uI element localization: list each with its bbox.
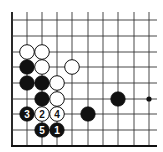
white-stone-icon [65, 60, 80, 75]
white-stone-icon [35, 45, 50, 60]
star-points [146, 96, 151, 101]
black-stone [35, 92, 50, 107]
white-stone [50, 92, 65, 107]
black-stone-1: 1 [50, 123, 65, 138]
white-stone-4: 4 [50, 107, 65, 122]
black-stone-icon [35, 76, 50, 91]
move-number-label: 2 [39, 109, 45, 120]
black-stone-icon [20, 60, 35, 75]
black-stone-icon [111, 92, 126, 107]
white-stone [65, 60, 80, 75]
star-point-icon [146, 96, 151, 101]
move-number-label: 4 [54, 109, 60, 120]
black-stone [111, 92, 126, 107]
move-number-label: 3 [24, 109, 30, 120]
black-stone-icon [20, 76, 35, 91]
white-stone [50, 76, 65, 91]
black-stone-icon [81, 107, 96, 122]
white-stone [20, 45, 35, 60]
white-stone [35, 60, 50, 75]
black-stone [35, 76, 50, 91]
white-stone [35, 45, 50, 60]
white-stone-icon [20, 45, 35, 60]
white-stone-2: 2 [35, 107, 50, 122]
go-board: 32451 [0, 0, 163, 152]
black-stone-3: 3 [20, 107, 35, 122]
white-stone-icon [35, 60, 50, 75]
move-number-label: 1 [54, 125, 60, 136]
black-stone [20, 60, 35, 75]
stones: 32451 [20, 45, 126, 138]
black-stone [81, 107, 96, 122]
black-stone [20, 76, 35, 91]
white-stone-icon [50, 92, 65, 107]
black-stone-5: 5 [35, 123, 50, 138]
white-stone-icon [50, 76, 65, 91]
black-stone-icon [35, 92, 50, 107]
move-number-label: 5 [39, 125, 45, 136]
